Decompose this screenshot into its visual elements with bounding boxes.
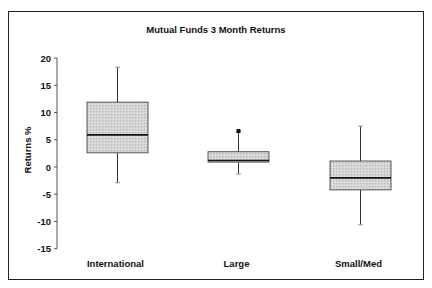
category-label: Large bbox=[224, 258, 250, 269]
category-labels: InternationalLargeSmall/Med bbox=[87, 258, 382, 269]
category-label: Small/Med bbox=[335, 258, 382, 269]
y-tick-label: -15 bbox=[37, 243, 51, 254]
y-axis: 20151050-5-10-15 bbox=[37, 53, 57, 255]
outlier-point bbox=[237, 129, 241, 133]
boxes-group bbox=[87, 67, 391, 225]
box-large bbox=[208, 129, 269, 174]
y-tick-label: -5 bbox=[43, 189, 52, 200]
category-label: International bbox=[87, 258, 144, 269]
y-tick-label: 15 bbox=[40, 80, 51, 91]
y-tick-label: 0 bbox=[46, 162, 51, 173]
y-tick-label: 5 bbox=[46, 134, 52, 145]
y-tick-label: 10 bbox=[40, 107, 51, 118]
y-tick-label: -10 bbox=[37, 216, 51, 227]
chart-title: Mutual Funds 3 Month Returns bbox=[146, 24, 285, 35]
y-axis-label: Returns % bbox=[22, 126, 33, 174]
box-international bbox=[87, 67, 148, 183]
y-tick-label: 20 bbox=[40, 53, 51, 64]
box-small-med bbox=[330, 126, 391, 225]
boxplot-chart: Mutual Funds 3 Month Returns Returns % 2… bbox=[0, 0, 432, 288]
